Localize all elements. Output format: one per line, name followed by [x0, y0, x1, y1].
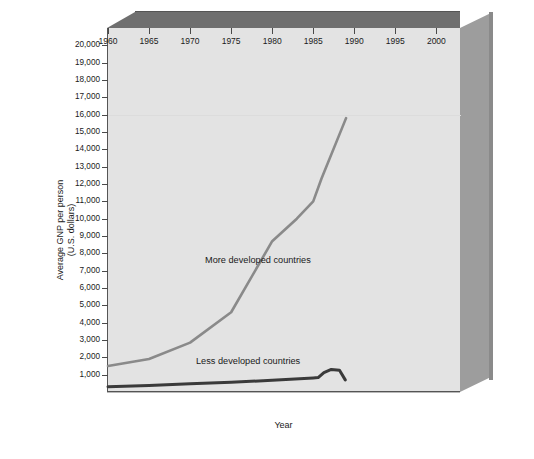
- x-axis-tick-label: 1975: [222, 37, 241, 46]
- y-axis-tick-label: 14,000: [75, 145, 100, 153]
- y-axis-tick: [102, 305, 108, 306]
- y-axis-tick-label: 6,000: [80, 284, 101, 292]
- y-axis-tick-label: 13,000: [75, 163, 100, 171]
- frame-top-bevel: [107, 12, 460, 28]
- series-line-more-developed: [108, 118, 346, 366]
- y-axis-tick-label: 19,000: [75, 59, 100, 67]
- y-axis-tick-label: 17,000: [75, 93, 100, 101]
- x-axis-tick-label: 1995: [386, 37, 405, 46]
- y-axis-tick-label: 5,000: [80, 301, 101, 309]
- y-axis-tick: [102, 201, 108, 202]
- x-axis-title: Year: [107, 420, 460, 430]
- y-axis-tick-label: 16,000: [75, 111, 100, 119]
- y-axis-tick: [102, 219, 108, 220]
- y-axis-tick: [102, 115, 108, 116]
- y-axis-tick: [102, 340, 108, 341]
- y-axis-tick: [102, 184, 108, 185]
- series-label-less-developed: Less developed countries: [196, 356, 300, 366]
- y-axis-tick: [102, 149, 108, 150]
- x-axis-tick: [313, 28, 314, 34]
- plot-inner: [108, 28, 460, 391]
- plot-area: 1,0002,0003,0004,0005,0006,0007,0008,000…: [107, 28, 460, 392]
- y-axis-title-line1: Average GNP per person: [55, 179, 66, 280]
- x-axis-tick-label: 1985: [304, 37, 323, 46]
- y-axis-tick: [102, 357, 108, 358]
- x-axis-tick: [190, 28, 191, 34]
- data-lines: [108, 28, 461, 392]
- y-axis-tick: [102, 132, 108, 133]
- frame-right-edge: [489, 12, 493, 380]
- y-axis-tick-label: 10,000: [75, 215, 100, 223]
- y-axis-tick-label: 4,000: [80, 319, 101, 327]
- x-axis-tick: [231, 28, 232, 34]
- x-axis-tick: [395, 28, 396, 34]
- x-axis-tick-label: 1965: [140, 37, 159, 46]
- y-axis-tick: [102, 253, 108, 254]
- y-axis-tick-label: 3,000: [80, 336, 101, 344]
- x-axis-tick-label: 1970: [181, 37, 200, 46]
- y-axis-tick: [102, 375, 108, 376]
- x-axis-tick-label: 1960: [99, 37, 118, 46]
- y-axis-tick-label: 20,000: [75, 41, 100, 49]
- x-axis-tick-label: 2000: [427, 37, 446, 46]
- y-axis-tick: [102, 236, 108, 237]
- y-axis-tick-label: 12,000: [75, 180, 100, 188]
- series-label-more-developed: More developed countries: [205, 255, 311, 265]
- x-axis-tick: [354, 28, 355, 34]
- y-axis-tick-label: 15,000: [75, 128, 100, 136]
- y-axis-tick: [102, 323, 108, 324]
- y-axis-tick-label: 8,000: [80, 249, 101, 257]
- series-line-less-developed: [108, 369, 345, 386]
- y-axis-title: Average GNP per person (U.S. dollars): [55, 179, 77, 280]
- y-axis-tick-label: 7,000: [80, 267, 101, 275]
- x-axis-tick-label: 1990: [345, 37, 364, 46]
- x-axis-tick: [272, 28, 273, 34]
- y-axis-title-line2: (U.S. dollars): [66, 179, 77, 280]
- x-axis-tick-label: 1980: [263, 37, 282, 46]
- x-axis-tick: [436, 28, 437, 34]
- y-axis-tick-label: 11,000: [76, 197, 100, 205]
- y-axis-tick: [102, 63, 108, 64]
- y-axis-tick: [102, 167, 108, 168]
- y-axis-tick: [102, 97, 108, 98]
- x-axis-tick: [149, 28, 150, 34]
- y-axis-tick: [102, 271, 108, 272]
- y-axis-tick-label: 2,000: [80, 353, 101, 361]
- y-axis-tick: [102, 80, 108, 81]
- chart-figure: Average GNP per person (U.S. dollars) 1,…: [0, 0, 534, 459]
- y-axis-tick: [102, 288, 108, 289]
- x-axis-tick: [108, 28, 109, 34]
- y-axis-tick-label: 9,000: [80, 232, 101, 240]
- y-axis-tick-label: 1,000: [80, 371, 101, 379]
- y-axis-tick-label: 18,000: [75, 76, 100, 84]
